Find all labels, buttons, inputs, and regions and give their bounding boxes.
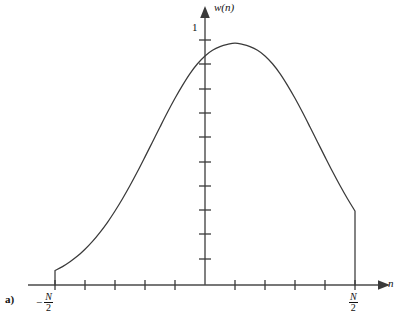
fraction-denominator: 2 xyxy=(349,303,358,313)
y-axis-arrowhead xyxy=(200,6,210,18)
panel-label: a) xyxy=(5,294,14,305)
y-axis-label: w(n) xyxy=(214,2,234,13)
figure-gaussian-window: w(n) n 1 −N2 N2 a) xyxy=(0,0,407,324)
fraction-n-over-2: N2 xyxy=(44,292,53,313)
x-tick-label-left-minus-n-over-2: −N2 xyxy=(36,292,53,313)
minus-sign: − xyxy=(36,297,44,308)
x-tick-label-right-n-over-2: N2 xyxy=(349,292,358,313)
fraction-n-over-2: N2 xyxy=(349,292,358,313)
fraction-denominator: 2 xyxy=(44,303,53,313)
y-tick-label-one: 1 xyxy=(192,22,198,33)
x-axis-label: n xyxy=(388,278,394,289)
plot-canvas xyxy=(0,0,407,324)
